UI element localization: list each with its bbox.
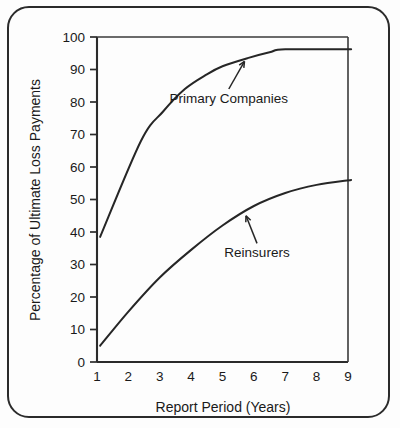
y-tick-label: 50 [70,192,85,207]
y-axis-title: Percentage of Ultimate Loss Payments [27,79,43,321]
x-tick-label: 1 [93,369,101,384]
y-tick-label: 40 [70,225,85,240]
annotation-leader-lines [229,61,257,243]
x-tick-label: 5 [219,369,227,384]
y-tick-label: 100 [62,30,85,45]
y-tick-label: 10 [70,322,85,337]
x-tick-label: 6 [250,369,258,384]
y-axis-tick-labels: 0102030405060708090100 [62,30,85,370]
series-annotation-label-1: Primary Companies [170,91,289,106]
line-chart-plot: 0102030405060708090100 123456789 Primary… [0,0,400,428]
y-tick-label: 60 [70,160,85,175]
plot-frame [97,37,348,362]
chart-figure: 0102030405060708090100 123456789 Primary… [0,0,400,428]
leader-line-1 [229,61,245,89]
x-tick-label: 9 [344,369,352,384]
x-axis-tick-labels: 123456789 [93,369,352,384]
y-tick-label: 0 [77,355,85,370]
x-tick-label: 7 [281,369,289,384]
y-tick-label: 80 [70,95,85,110]
y-tick-label: 20 [70,290,85,305]
series-line-2 [100,180,351,346]
series-annotation-labels: Primary CompaniesReinsurers [170,91,290,260]
x-axis-title: Report Period (Years) [156,399,291,415]
x-tick-label: 2 [125,369,133,384]
y-tick-label: 90 [70,62,85,77]
x-tick-label: 4 [187,369,195,384]
x-tick-label: 8 [313,369,321,384]
leader-line-2 [246,216,257,244]
y-tick-label: 30 [70,257,85,272]
y-tick-label: 70 [70,127,85,142]
series-line-1 [100,49,351,237]
x-tick-label: 3 [156,369,164,384]
series-annotation-label-2: Reinsurers [224,245,290,260]
